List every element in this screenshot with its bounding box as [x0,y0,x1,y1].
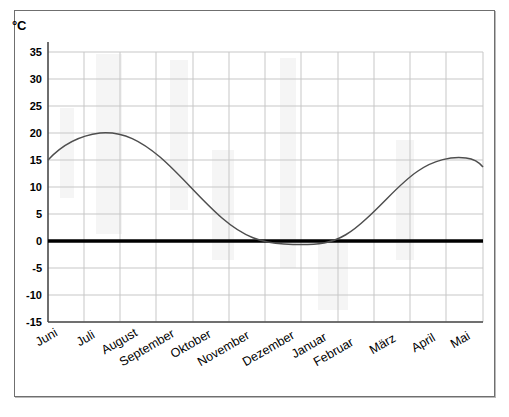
ytick-label-10: 10 [16,181,42,193]
ytick-label-15: 15 [16,154,42,166]
ytick-label-neg15: -15 [16,316,42,328]
ytick-label-35: 35 [16,46,42,58]
scan-artifacts [60,54,414,310]
ytick-label-25: 25 [16,100,42,112]
ytick-label-0: 0 [16,235,42,247]
ytick-label-5: 5 [16,208,42,220]
ytick-label-neg5: -5 [16,262,42,274]
ytick-label-30: 30 [16,73,42,85]
ytick-label-neg10: -10 [16,289,42,301]
ytick-label-20: 20 [16,127,42,139]
